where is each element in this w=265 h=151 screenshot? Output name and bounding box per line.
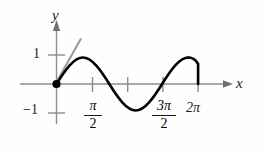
y-axis [53,20,60,124]
pi-over-2-denominator: 2 [80,117,106,132]
sine-curve-tail [189,58,199,85]
plot-canvas [0,0,265,151]
y-tick-label-negative-one: −1 [23,103,38,117]
x-axis-label: x [236,76,243,91]
origin-point [52,80,60,88]
x-tick-label-pi-over-2: π 2 [80,99,106,131]
x-tick-label-3pi-over-2: 3π 2 [148,99,180,131]
x-tick-label-2pi: 2π [186,101,200,115]
y-axis-label: y [52,8,59,23]
3pi-over-2-numerator: 3π [148,99,180,114]
x-axis [20,80,233,87]
y-tick-label-one: 1 [33,47,40,61]
3pi-over-2-denominator: 2 [148,117,180,132]
pi-over-2-numerator: π [80,99,106,114]
sine-curve-figure: y x 1 −1 π 2 3π 2 2π [0,0,265,151]
